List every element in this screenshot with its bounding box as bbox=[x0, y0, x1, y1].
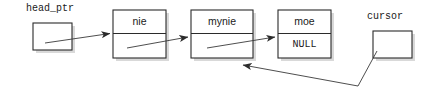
head-ptr-box bbox=[33, 23, 72, 50]
cursor-label: cursor bbox=[367, 11, 403, 22]
node-mynie-data: mynie bbox=[191, 15, 253, 27]
linked-list-diagram: head_ptr cursor nie mynie moe NULL bbox=[0, 0, 433, 91]
node-nie-data: nie bbox=[113, 15, 166, 27]
node-moe-link-null: NULL bbox=[278, 39, 331, 50]
cursor-box bbox=[373, 31, 412, 58]
head-ptr-label: head_ptr bbox=[26, 3, 74, 14]
node-moe-data: moe bbox=[278, 15, 331, 27]
